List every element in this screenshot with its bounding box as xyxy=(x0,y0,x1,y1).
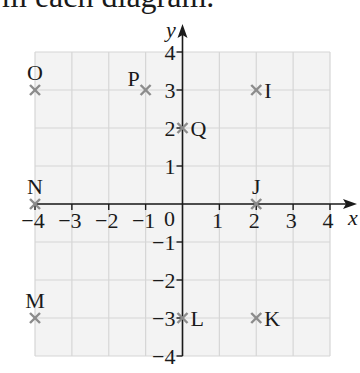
y-tick-label: −3 xyxy=(152,306,175,331)
y-tick-label: 3 xyxy=(165,78,176,103)
point-label: M xyxy=(25,288,45,313)
y-tick-label: −4 xyxy=(152,344,175,369)
point-label: O xyxy=(27,60,43,85)
point-label: L xyxy=(191,306,204,331)
origin-label: 0 xyxy=(164,206,175,231)
point-label: J xyxy=(252,174,261,199)
point-label: P xyxy=(128,66,140,91)
point-label: Q xyxy=(191,116,207,141)
point-label: K xyxy=(264,306,280,331)
y-tick-label: 4 xyxy=(165,40,176,65)
x-tick-label: −4 xyxy=(21,208,44,233)
x-tick-label: 2 xyxy=(249,208,260,233)
point-label: N xyxy=(27,174,43,199)
x-tick-label: 4 xyxy=(323,208,334,233)
point-label: I xyxy=(264,78,271,103)
y-tick-label: −1 xyxy=(152,230,175,255)
x-axis-label: x xyxy=(347,205,358,230)
x-tick-label: −3 xyxy=(58,208,81,233)
x-tick-label: 3 xyxy=(286,208,297,233)
y-tick-label: −2 xyxy=(152,268,175,293)
y-axis-label: y xyxy=(164,17,176,42)
y-tick-label: 1 xyxy=(165,154,176,179)
coordinate-grid-chart: xy −4−3−2−1123404321−1−2−3−4 OPIQNJMLK xyxy=(0,0,360,373)
x-tick-label: 1 xyxy=(212,208,223,233)
x-tick-label: −2 xyxy=(95,208,118,233)
y-tick-label: 2 xyxy=(165,116,176,141)
